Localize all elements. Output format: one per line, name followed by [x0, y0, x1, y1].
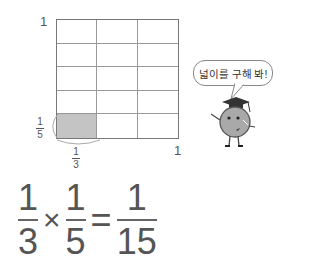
grid-cell: [97, 20, 137, 44]
graduate-ball-character-icon: [200, 90, 270, 170]
col-fraction-num: 1: [73, 147, 79, 157]
grid-cell: [57, 20, 97, 44]
denominator: 3: [18, 224, 38, 260]
multiplication-equation: 1 3 × 1 5 = 1 15: [18, 180, 157, 260]
grid-cell: [97, 67, 137, 91]
grid-cell: [97, 44, 137, 68]
fraction-one-third: 1 3: [18, 180, 38, 260]
fraction-result: 1 15: [117, 180, 157, 260]
numerator: 1: [66, 180, 86, 216]
equals-operator: =: [91, 199, 112, 241]
bracket-arcs: [44, 110, 104, 150]
grid-cell: [138, 20, 178, 44]
fraction-one-fifth: 1 5: [66, 180, 86, 260]
grid-cell: [138, 67, 178, 91]
row-fraction-label: 1 5: [36, 117, 44, 140]
grid-cell: [138, 114, 178, 138]
numerator: 1: [18, 180, 38, 216]
speech-text: 넓이를 구해 봐!: [199, 66, 268, 81]
grid-top-label: 1: [40, 14, 47, 29]
grid-right-label: 1: [174, 143, 181, 158]
row-fraction-den: 5: [37, 130, 43, 140]
numerator: 1: [127, 180, 147, 216]
denominator: 5: [66, 224, 86, 260]
denominator: 15: [117, 224, 157, 260]
col-fraction-label: 1 3: [72, 147, 80, 170]
col-fraction-den: 3: [73, 160, 79, 170]
grid-cell: [138, 44, 178, 68]
row-fraction-num: 1: [37, 117, 43, 127]
grid-cell: [57, 44, 97, 68]
grid-cell: [57, 67, 97, 91]
grid-cell: [138, 91, 178, 115]
times-operator: ×: [43, 203, 61, 237]
